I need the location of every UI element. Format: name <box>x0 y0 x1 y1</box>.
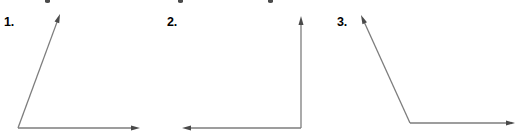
angle-diagrams-canvas <box>0 0 523 138</box>
horizontal-ray-left-arrowhead-icon <box>182 126 191 131</box>
figure-label-1: 1. <box>4 16 14 29</box>
figure-2-right-angle <box>182 16 304 131</box>
figure-label-2: 2. <box>167 16 177 29</box>
vertical-ray-up-arrowhead-icon <box>299 16 304 25</box>
figure-1-acute-angle <box>18 14 140 131</box>
angles-worksheet: 1. 2. 3. <box>0 0 523 138</box>
horizontal-ray-right-arrowhead-icon <box>506 121 515 126</box>
slanted-ray-up-left <box>363 20 410 123</box>
horizontal-ray-right-arrowhead-icon <box>131 126 140 131</box>
figure-label-3: 3. <box>337 16 347 29</box>
slanted-ray-up-right-arrowhead-icon <box>55 14 60 23</box>
slanted-ray-up-right <box>18 19 58 128</box>
slanted-ray-up-left-arrowhead-icon <box>361 15 367 24</box>
figure-3-obtuse-angle <box>361 15 515 126</box>
